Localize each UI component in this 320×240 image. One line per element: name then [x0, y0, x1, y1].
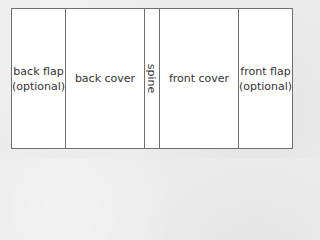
- front-flap-panel: front flap (optional): [239, 9, 292, 148]
- spine-panel: spine: [145, 9, 159, 148]
- back-cover-panel: back cover: [66, 9, 144, 148]
- spine-label: spine: [145, 64, 160, 94]
- book-jacket-diagram: back flap (optional) back cover spine fr…: [11, 8, 293, 149]
- front-cover-panel: front cover: [160, 9, 238, 148]
- front-flap-optional-note: (optional): [239, 79, 292, 94]
- back-flap-label: back flap: [12, 64, 65, 79]
- back-cover-label: back cover: [75, 71, 135, 86]
- back-flap-panel: back flap (optional): [12, 9, 65, 148]
- front-flap-label: front flap: [239, 64, 292, 79]
- front-cover-label: front cover: [169, 71, 229, 86]
- back-flap-optional-note: (optional): [12, 79, 65, 94]
